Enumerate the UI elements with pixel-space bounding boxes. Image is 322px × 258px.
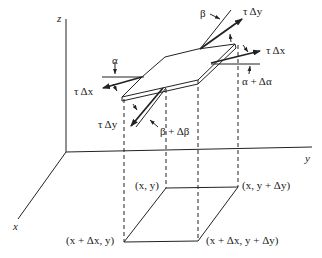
y-axis — [66, 147, 312, 152]
beta-label: β — [200, 8, 206, 19]
alpha-plus-dalpha-label: α + Δα — [242, 76, 272, 87]
y-axis-label: y — [305, 153, 310, 164]
z-axis-label: z — [57, 13, 61, 24]
corner-label-xy: (x, y) — [135, 180, 159, 191]
tau-dx-right-label: τ Δx — [266, 45, 285, 56]
plate-top — [122, 44, 235, 97]
x-axis-label: x — [13, 221, 18, 232]
tau-dy-back-label: τ Δy — [243, 6, 262, 17]
corner-label-xdx-ydy: (x + Δx, y + Δy) — [206, 235, 278, 246]
tau-dy-front-label: τ Δy — [98, 119, 117, 130]
alpha-label: α — [112, 55, 118, 66]
tau-dx-left-label: τ Δx — [74, 86, 93, 97]
membrane-element-diagram: z y x (x, y) (x, y + Δy) (x + Δx, y) (x … — [0, 0, 322, 258]
x-axis — [18, 152, 66, 219]
corner-label-xdx-y: (x + Δx, y) — [66, 235, 114, 246]
corner-label-x-ydy: (x, y + Δy) — [242, 180, 290, 191]
beta-plus-dbeta-label: β + Δβ — [160, 126, 189, 137]
